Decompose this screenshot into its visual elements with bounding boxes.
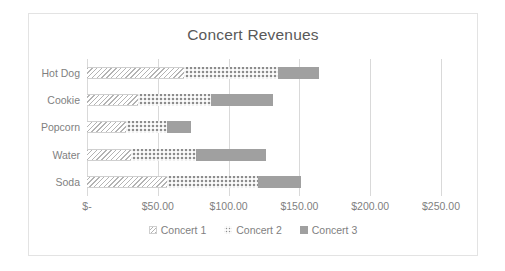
bar-row: Cookie: [87, 86, 441, 113]
category-label: Water: [52, 149, 80, 161]
x-tick-label: $150.00: [280, 200, 318, 212]
bar-segment-series-3[interactable]: [258, 176, 301, 188]
category-label: Popcorn: [41, 121, 80, 133]
x-tick-label: $-: [82, 200, 91, 212]
x-tick-label: $50.00: [142, 200, 174, 212]
category-label: Hot Dog: [41, 67, 80, 79]
stacked-bar[interactable]: [87, 121, 191, 133]
legend-swatch-icon: [224, 226, 232, 234]
bar-row: Popcorn: [87, 114, 441, 141]
bar-row: Water: [87, 141, 441, 168]
bar-segment-series-1[interactable]: [87, 121, 126, 133]
plot-area: Hot DogCookiePopcornWaterSoda: [87, 59, 441, 196]
bar-segment-series-3[interactable]: [211, 94, 273, 106]
legend-label: Concert 2: [236, 224, 282, 236]
bar-segment-series-2[interactable]: [167, 176, 258, 188]
legend-item-1[interactable]: Concert 1: [149, 224, 207, 236]
category-label: Cookie: [47, 94, 80, 106]
legend-item-2[interactable]: Concert 2: [224, 224, 282, 236]
bar-segment-series-1[interactable]: [87, 67, 184, 79]
category-label: Soda: [55, 176, 80, 188]
legend-swatch-icon: [149, 226, 157, 234]
legend-swatch-icon: [300, 226, 308, 234]
stacked-bar[interactable]: [87, 94, 273, 106]
chart-title: Concert Revenues: [29, 26, 477, 44]
bar-segment-series-1[interactable]: [87, 94, 138, 106]
legend-label: Concert 3: [312, 224, 358, 236]
bar-segment-series-2[interactable]: [126, 121, 167, 133]
bar-segment-series-2[interactable]: [131, 149, 196, 161]
bar-segment-series-2[interactable]: [138, 94, 211, 106]
x-tick-label: $250.00: [422, 200, 460, 212]
stacked-bar[interactable]: [87, 176, 301, 188]
legend-item-3[interactable]: Concert 3: [300, 224, 358, 236]
x-tick-label: $100.00: [210, 200, 248, 212]
legend-label: Concert 1: [161, 224, 207, 236]
gridline-5: [441, 59, 442, 196]
bar-segment-series-3[interactable]: [196, 149, 266, 161]
bar-segment-series-3[interactable]: [278, 67, 319, 79]
x-axis-tick-labels: $-$50.00$100.00$150.00$200.00$250.00: [87, 200, 441, 216]
stacked-bar[interactable]: [87, 67, 319, 79]
bar-segment-series-1[interactable]: [87, 149, 131, 161]
bar-segment-series-3[interactable]: [167, 121, 191, 133]
stacked-bar[interactable]: [87, 149, 266, 161]
bar-segment-series-2[interactable]: [184, 67, 278, 79]
bar-segment-series-1[interactable]: [87, 176, 167, 188]
bar-row: Hot Dog: [87, 59, 441, 86]
chart-legend: Concert 1Concert 2Concert 3: [29, 224, 477, 236]
chart-container: Concert Revenues Hot DogCookiePopcornWat…: [28, 13, 478, 256]
x-tick-label: $200.00: [351, 200, 389, 212]
bar-row: Soda: [87, 169, 441, 196]
